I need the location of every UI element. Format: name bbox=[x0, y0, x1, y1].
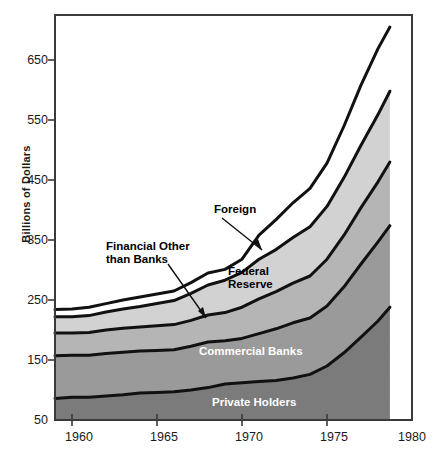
leader-foreign bbox=[222, 218, 262, 250]
annotation-private-holders: Private Holders bbox=[212, 396, 296, 409]
annotation-commercial-banks: Commercial Banks bbox=[199, 345, 303, 358]
annotation-financial-other-line2: than Banks bbox=[106, 253, 168, 266]
area-bands bbox=[55, 27, 390, 420]
annotation-federal-reserve-line2: Reserve bbox=[228, 278, 273, 291]
annotation-foreign: Foreign bbox=[214, 203, 256, 216]
stacked-area-plot bbox=[0, 0, 438, 451]
annotation-financial-other-line1: Financial Other bbox=[106, 240, 190, 253]
chart-container: Billions of Dollars 650 550 450 350 250 … bbox=[0, 0, 438, 451]
annotation-federal-reserve-line1: Federal bbox=[228, 265, 269, 278]
